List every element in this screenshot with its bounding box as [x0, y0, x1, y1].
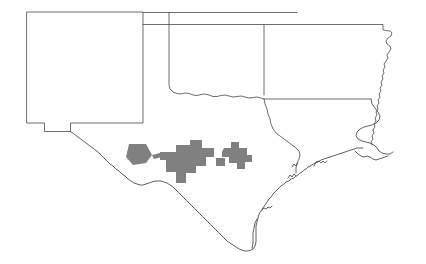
map-container — [0, 0, 426, 264]
highlight-county-east-satellite — [216, 158, 225, 166]
map-background — [0, 0, 426, 264]
highlight-cluster-central-arm — [166, 160, 176, 172]
map-svg — [0, 0, 426, 264]
